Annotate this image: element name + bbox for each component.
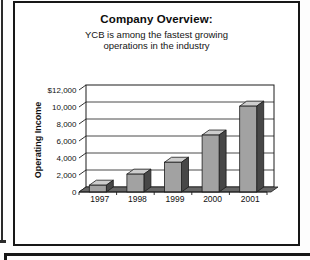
y-tick-label: 6,000: [56, 137, 77, 146]
y-tick-label: 10,000: [52, 103, 77, 112]
y-tick-label: 2,000: [56, 171, 77, 180]
bar-front-face: [202, 135, 219, 192]
bar-side-face: [182, 157, 189, 192]
bar-front-face: [165, 162, 182, 192]
bar-front-face: [240, 106, 257, 192]
x-category-label: 2000: [203, 194, 222, 204]
y-tick-label: 8,000: [56, 120, 77, 129]
y-axis-tick: [79, 153, 86, 158]
y-axis-tick: [79, 136, 86, 141]
scanned-handout-page: Company Overview: YCB is among the faste…: [0, 0, 310, 260]
bar-front-face: [127, 174, 144, 192]
y-axis-tick: [79, 119, 86, 124]
x-category-label: 1997: [90, 194, 109, 204]
operating-income-bar-chart: 02,0004,0006,0008,00010,000$12,000199719…: [0, 0, 310, 260]
y-axis-tick: [79, 102, 86, 107]
bar-side-face: [219, 130, 226, 192]
y-tick-label: 4,000: [56, 154, 77, 163]
y-tick-label: $12,000: [48, 86, 77, 95]
x-category-label: 2001: [241, 194, 260, 204]
y-tick-label: 0: [72, 188, 77, 197]
x-category-label: 1998: [128, 194, 147, 204]
x-category-label: 1999: [166, 194, 185, 204]
bar-side-face: [257, 101, 264, 192]
bar-front-face: [89, 185, 106, 192]
y-axis-tick: [79, 85, 86, 90]
y-axis-title: Operating Income: [33, 102, 43, 179]
y-axis-tick: [79, 170, 86, 175]
